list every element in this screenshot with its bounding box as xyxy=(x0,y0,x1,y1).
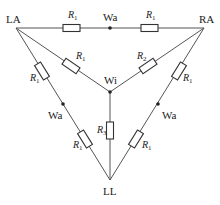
node-wa-left xyxy=(61,102,65,106)
node-wi xyxy=(108,90,112,94)
resistor-wa-top-ra xyxy=(141,25,158,32)
label-wa-right: Wa xyxy=(162,109,177,121)
label-wa-left: Wa xyxy=(48,109,63,121)
label-wa-top: Wa xyxy=(103,11,118,23)
circuit-diagram: LA RA Wa Wi Wa Wa LL R1 R1 R1 R2 R3 R1 R… xyxy=(0,0,220,205)
label-ll: LL xyxy=(103,185,117,197)
resistor-wi-ll xyxy=(107,122,114,139)
rlabel-wa-right-ll: R1 xyxy=(141,139,152,152)
rlabel-wa-top-ra: R1 xyxy=(145,9,156,22)
rlabel-la-wa-left: R1 xyxy=(29,72,40,85)
label-wi: Wi xyxy=(104,74,117,86)
node-wa-right xyxy=(156,102,160,106)
rlabel-ra-wa-right: R1 xyxy=(182,72,193,85)
rlabel-ra-wi: R2 xyxy=(136,50,147,63)
rlabel-wa-left-ll: R1 xyxy=(72,139,83,152)
rlabel-la-wa-top: R1 xyxy=(67,9,78,22)
label-ra: RA xyxy=(199,13,214,25)
node-wa-top xyxy=(108,26,112,30)
label-la: LA xyxy=(6,13,21,25)
rlabel-wi-ll: R3 xyxy=(96,124,107,137)
rlabel-la-wi: R1 xyxy=(75,50,86,63)
resistor-la-wa-top xyxy=(63,25,80,32)
